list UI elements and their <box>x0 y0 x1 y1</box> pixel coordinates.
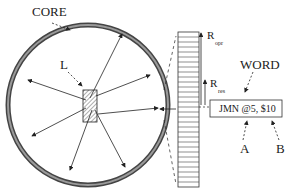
instruction-text: JMN @5, $10 <box>219 104 276 114</box>
projection-top <box>164 36 176 90</box>
operand-b-label: B <box>276 142 285 155</box>
r-res-subscript: res <box>218 88 225 94</box>
r-opr-subscript: opr <box>215 40 223 46</box>
core-label: CORE <box>32 5 67 18</box>
r-res-label: R <box>210 78 217 89</box>
operand-b-leader <box>272 121 279 140</box>
operand-a-label: A <box>240 142 249 155</box>
register-column <box>178 32 199 187</box>
r-opr-label: R <box>207 30 214 41</box>
word-leader <box>245 72 253 92</box>
locator-label: L <box>60 58 68 71</box>
locator-leader <box>68 72 82 86</box>
core-diagram <box>0 0 301 193</box>
locator-block <box>83 90 97 122</box>
operand-a-leader <box>243 121 247 140</box>
word-label: WORD <box>240 58 280 71</box>
